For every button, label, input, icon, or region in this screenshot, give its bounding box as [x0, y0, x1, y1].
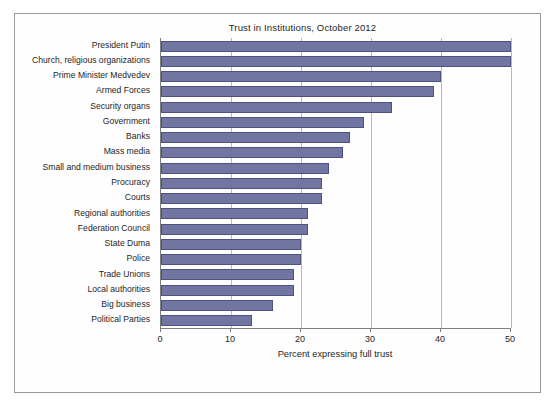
- bar[interactable]: [161, 86, 434, 97]
- category-label: Small and medium business: [43, 163, 150, 172]
- bar[interactable]: [161, 224, 308, 235]
- bar[interactable]: [161, 193, 322, 204]
- bar[interactable]: [161, 315, 252, 326]
- x-tick-label: 50: [505, 334, 515, 344]
- x-tick-label: 30: [365, 334, 375, 344]
- x-tick-30: [370, 328, 371, 332]
- bars-layer: [161, 38, 510, 328]
- bar[interactable]: [161, 285, 294, 296]
- chart-title: Trust in Institutions, October 2012: [0, 22, 553, 33]
- bar[interactable]: [161, 254, 301, 265]
- bar-row: [161, 252, 511, 268]
- bar[interactable]: [161, 41, 511, 52]
- bar[interactable]: [161, 208, 308, 219]
- bar-row: [161, 206, 511, 222]
- bar-row: [161, 99, 511, 115]
- category-label: Local authorities: [87, 285, 150, 294]
- x-tick-label: 10: [225, 334, 235, 344]
- category-label: Regional authorities: [74, 209, 150, 218]
- category-label: Security organs: [90, 102, 150, 111]
- bar-row: [161, 130, 511, 146]
- bar-row: [161, 282, 511, 298]
- bar[interactable]: [161, 163, 329, 174]
- x-axis-title: Percent expressing full trust: [160, 349, 510, 359]
- x-tick-50: [510, 328, 511, 332]
- bar[interactable]: [161, 132, 350, 143]
- bar[interactable]: [161, 147, 343, 158]
- bar-row: [161, 53, 511, 69]
- category-label: President Putin: [92, 41, 150, 50]
- bar-row: [161, 145, 511, 161]
- category-label: Federation Council: [78, 224, 150, 233]
- bar[interactable]: [161, 117, 364, 128]
- category-axis-labels: President PutinChurch, religious organiz…: [0, 38, 156, 328]
- bar-row: [161, 267, 511, 283]
- bar-row: [161, 313, 511, 329]
- x-tick-label: 20: [295, 334, 305, 344]
- category-label: Armed Forces: [96, 86, 150, 95]
- x-tick-label: 0: [157, 334, 162, 344]
- x-axis-line: [160, 328, 511, 329]
- bar-row: [161, 221, 511, 237]
- x-tick-0: [160, 328, 161, 332]
- category-label: State Duma: [105, 239, 150, 248]
- bar-row: [161, 236, 511, 252]
- category-label: Mass media: [104, 147, 150, 156]
- category-label: Trade Unions: [99, 270, 150, 279]
- category-label: Procuracy: [111, 178, 150, 187]
- bar-row: [161, 69, 511, 85]
- category-label: Big business: [101, 300, 150, 309]
- x-tick-40: [440, 328, 441, 332]
- gridline-50: [511, 38, 512, 328]
- bar-row: [161, 297, 511, 313]
- bar-row: [161, 84, 511, 100]
- bar[interactable]: [161, 239, 301, 250]
- x-tick-label: 40: [435, 334, 445, 344]
- bar[interactable]: [161, 178, 322, 189]
- bar-row: [161, 175, 511, 191]
- bar[interactable]: [161, 269, 294, 280]
- category-label: Police: [127, 254, 150, 263]
- bar-row: [161, 114, 511, 130]
- bar-row: [161, 38, 511, 54]
- x-tick-10: [230, 328, 231, 332]
- category-label: Political Parties: [91, 315, 150, 324]
- x-tick-20: [300, 328, 301, 332]
- bar[interactable]: [161, 71, 441, 82]
- category-label: Church, religious organizations: [32, 56, 150, 65]
- bar[interactable]: [161, 300, 273, 311]
- bar[interactable]: [161, 56, 511, 67]
- bar-row: [161, 191, 511, 207]
- category-label: Prime Minister Medvedev: [53, 71, 150, 80]
- category-label: Banks: [126, 132, 150, 141]
- bar-row: [161, 160, 511, 176]
- category-label: Government: [103, 117, 150, 126]
- category-label: Courts: [125, 193, 150, 202]
- bar[interactable]: [161, 102, 392, 113]
- plot-area: [160, 38, 510, 328]
